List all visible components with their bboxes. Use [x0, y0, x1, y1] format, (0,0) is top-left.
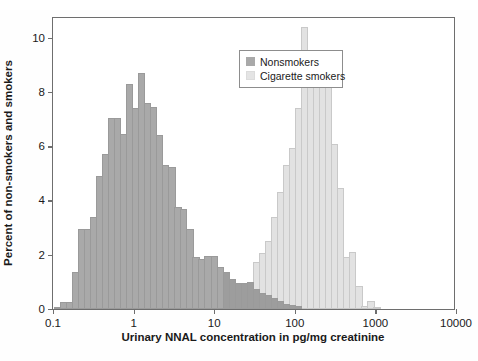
y-tick-label: 6 [39, 140, 45, 152]
x-tick-label: 1 [130, 317, 136, 329]
x-tick-mark [456, 309, 457, 314]
x-tick-label: 0.1 [45, 317, 61, 329]
y-tick-label: 8 [39, 86, 45, 98]
y-tick-label: 10 [32, 32, 45, 44]
legend-label-cigarette-smokers: Cigarette smokers [260, 70, 345, 82]
chart-figure: Percent of non-smokers and smokers Urina… [0, 0, 478, 361]
histogram-bar [373, 307, 380, 309]
legend-swatch-icon-cigarette-smokers [246, 71, 255, 80]
x-tick-mark [295, 309, 296, 314]
legend-label-nonsmokers: Nonsmokers [260, 56, 319, 68]
x-tick-mark [375, 309, 376, 314]
x-tick-label: 10 [208, 317, 221, 329]
y-tick-mark [48, 146, 53, 147]
x-tick-label: 1000 [363, 317, 389, 329]
y-tick-label: 0 [39, 303, 45, 315]
legend-item-nonsmokers: Nonsmokers [246, 55, 336, 68]
x-tick-mark [53, 309, 54, 314]
x-axis-title: Urinary NNAL concentration in pg/mg crea… [121, 331, 384, 343]
x-tick-label: 100 [285, 317, 304, 329]
y-axis-title: Percent of non-smokers and smokers [2, 60, 14, 266]
y-tick-mark [48, 92, 53, 93]
y-tick-label: 4 [39, 194, 45, 206]
legend-swatch-icon-nonsmokers [246, 57, 255, 66]
plot-area: 0246810 0.1110100100010000 Nonsmokers Ci… [52, 17, 455, 310]
y-tick-label: 2 [39, 249, 45, 261]
y-tick-mark [48, 255, 53, 256]
x-tick-mark [134, 309, 135, 314]
histogram-bar [295, 306, 302, 309]
y-tick-mark [48, 38, 53, 39]
figure-top-margin [0, 0, 478, 10]
legend-item-cigarette-smokers: Cigarette smokers [246, 69, 336, 82]
x-tick-label: 10000 [440, 317, 472, 329]
y-tick-mark [48, 200, 53, 201]
x-tick-mark [214, 309, 215, 314]
chart-legend: Nonsmokers Cigarette smokers [239, 50, 343, 88]
